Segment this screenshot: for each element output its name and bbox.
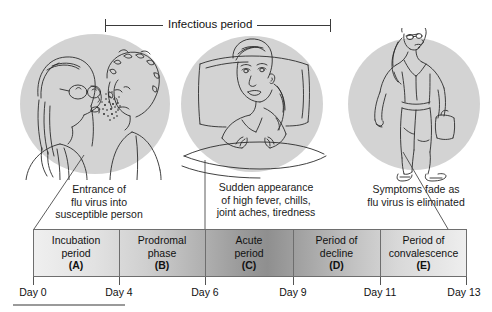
axis-tick <box>119 277 120 285</box>
axis-tick <box>380 277 381 285</box>
segment-letter: (C) <box>242 259 257 271</box>
caption-line: Symptoms fade as <box>344 183 488 196</box>
timeline-band: Incubation period (A) Prodromal phase (B… <box>33 229 467 277</box>
transmission-line-art <box>14 30 174 180</box>
caption-acute-symptoms: Sudden appearance of high fever, chills,… <box>192 181 340 219</box>
timeline-segment-e[interactable]: Period of convalescence (E) <box>380 229 467 277</box>
caption-line: Entrance of <box>24 183 174 196</box>
segment-label-line: convalescence <box>389 247 458 259</box>
sick-in-bed-line-art <box>176 30 332 180</box>
illustration-sick-in-bed <box>176 30 332 180</box>
timeline-segment-b[interactable]: Prodromal phase (B) <box>119 229 205 277</box>
infectious-period-bracket: Infectious period <box>0 8 492 28</box>
segment-label-line: Period of <box>315 234 357 246</box>
segment-divider <box>380 229 381 277</box>
caption-line: flu virus into <box>24 196 174 209</box>
day-label: Day 6 <box>191 286 218 299</box>
segment-letter: (D) <box>329 259 344 271</box>
day-axis: Day 0 Day 4 Day 6 Day 9 Day 11 Day 13 <box>0 277 492 303</box>
timeline-segment-a[interactable]: Incubation period (A) <box>33 229 119 277</box>
caption-recovery: Symptoms fade as flu virus is eliminated <box>344 183 488 208</box>
day-label: Day 9 <box>279 286 306 299</box>
segment-label-line: Incubation <box>52 234 100 246</box>
day-label: Day 11 <box>364 286 397 299</box>
recovered-walking-line-art <box>342 28 488 182</box>
segment-letter: (E) <box>417 259 431 271</box>
axis-tick <box>293 277 294 285</box>
axis-tick <box>205 277 206 285</box>
segment-divider <box>119 229 120 277</box>
caption-line: Sudden appearance <box>192 181 340 194</box>
day-label: Day 0 <box>19 286 46 299</box>
segment-label-line: Acute <box>236 234 263 246</box>
caption-line: flu virus is eliminated <box>344 196 488 209</box>
segment-letter: (B) <box>155 259 170 271</box>
segment-letter: (A) <box>69 259 84 271</box>
axis-tick <box>33 277 34 285</box>
axis-tick <box>466 277 467 285</box>
illustration-recovered <box>342 28 488 182</box>
caption-line: susceptible person <box>24 208 174 221</box>
segment-label-line: phase <box>148 247 177 259</box>
caption-line: of high fever, chills, <box>192 194 340 207</box>
timeline-segment-d[interactable]: Period of decline (D) <box>293 229 380 277</box>
segment-divider <box>293 229 294 277</box>
segment-divider <box>205 229 206 277</box>
illustration-transmission <box>14 30 174 180</box>
segment-label-line: Prodromal <box>138 234 186 246</box>
footer-rule <box>13 304 125 306</box>
day-label: Day 4 <box>105 286 132 299</box>
day-label: Day 13 <box>447 286 480 299</box>
caption-line: joint aches, tiredness <box>192 206 340 219</box>
segment-label-line: Period of <box>402 234 444 246</box>
caption-transmission: Entrance of flu virus into susceptible p… <box>24 183 174 221</box>
segment-label-line: period <box>61 247 90 259</box>
segment-label-line: period <box>234 247 263 259</box>
flu-timeline-diagram: Infectious period <box>0 0 492 312</box>
timeline-segment-c[interactable]: Acute period (C) <box>205 229 293 277</box>
segment-label-line: decline <box>320 247 353 259</box>
